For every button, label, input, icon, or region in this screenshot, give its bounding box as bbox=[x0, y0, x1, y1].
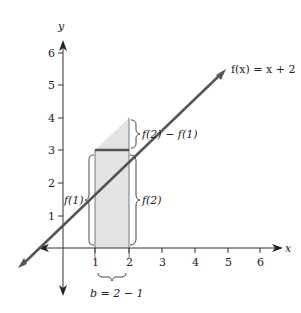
shaded-region bbox=[95, 118, 129, 248]
brace-base-icon bbox=[98, 273, 126, 281]
y-tick-label: 2 bbox=[48, 177, 55, 190]
linear-function-diagram: 1 2 3 4 5 6 1 2 3 4 5 6 x y f(x) = x + 2… bbox=[0, 0, 301, 313]
x-ticks bbox=[95, 248, 260, 253]
x-tick-label: 3 bbox=[159, 256, 166, 269]
brace-f2-label: f(2) bbox=[141, 194, 162, 207]
x-tick-label: 1 bbox=[92, 256, 99, 269]
x-tick-label: 2 bbox=[126, 256, 133, 269]
x-axis-label: x bbox=[285, 242, 292, 255]
brace-diff-label: f(2) − f(1) bbox=[141, 128, 198, 141]
y-axis-label: y bbox=[57, 20, 65, 33]
function-line-arrow-icon bbox=[18, 258, 27, 268]
brace-f2-icon bbox=[130, 155, 140, 245]
y-tick-label: 5 bbox=[48, 79, 55, 92]
brace-base-label: b = 2 − 1 bbox=[90, 287, 143, 300]
y-tick-label: 1 bbox=[48, 210, 55, 223]
y-tick-label: 3 bbox=[48, 144, 55, 157]
brace-f1-label: f(1) bbox=[63, 194, 84, 207]
x-tick-label: 6 bbox=[257, 256, 264, 269]
y-tick-label: 6 bbox=[48, 47, 55, 60]
function-label: f(x) = x + 2 bbox=[231, 63, 295, 76]
y-tick-label: 4 bbox=[48, 112, 55, 125]
brace-diff-icon bbox=[131, 120, 140, 148]
x-tick-label: 4 bbox=[192, 256, 199, 269]
y-ticks bbox=[58, 53, 63, 216]
x-tick-label: 5 bbox=[225, 256, 232, 269]
